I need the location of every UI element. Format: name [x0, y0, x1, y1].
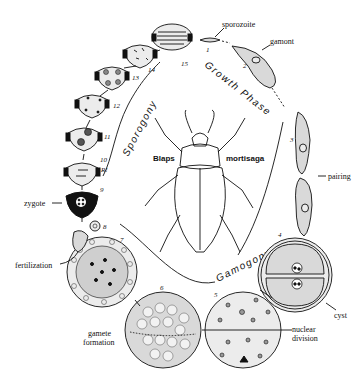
beetle-illustration	[145, 110, 253, 252]
label-pairing: pairing	[328, 172, 351, 181]
stage-number-8: 8	[103, 223, 107, 231]
life-cycle-diagram: Growth Phase Sporogony Gamogony Blaps mo…	[0, 0, 364, 372]
stage-10-oocyst	[64, 163, 100, 186]
stage-number-6: 6	[160, 284, 164, 292]
label-gamete-formation-line1: gamete	[88, 329, 112, 338]
stage-number-3: 3	[289, 136, 294, 144]
label-cyst: cyst	[334, 311, 348, 320]
label-gamont: gamont	[270, 37, 295, 46]
stage-15-oocyst-sporozoites	[152, 24, 192, 50]
label-nuclear-division-line2: division	[292, 334, 318, 343]
stage-9-zygote	[66, 192, 98, 222]
label-nuclear-division-line1: nuclear	[292, 325, 316, 334]
phase-label-sporogony: Sporogony	[120, 98, 159, 158]
host-genus-label: Blaps	[153, 154, 175, 163]
stage-number-2: 2	[243, 62, 247, 70]
stage-4-cyst	[258, 238, 332, 312]
host-species-label: mortisaga	[226, 154, 265, 163]
stage-number-14: 14	[148, 66, 156, 74]
stage-number-7: 7	[120, 236, 124, 244]
label-sporozoite: sporozoite	[222, 20, 256, 29]
label-fertilization: fertilization	[15, 261, 52, 270]
divider-growth	[238, 122, 283, 255]
stage-6-gamete-formation	[125, 292, 201, 368]
label-zygote: zygote	[24, 199, 46, 208]
stage-number-10: 10	[100, 156, 108, 164]
stage-12-oocyst	[75, 95, 109, 118]
stage-number-12: 12	[113, 102, 121, 110]
stage-number-5: 5	[214, 291, 218, 299]
stage-number-11: 11	[104, 133, 110, 141]
stage-13-oocyst	[95, 67, 129, 90]
stage-5-nuclear-division	[205, 292, 281, 368]
stage-14-oocyst	[123, 45, 157, 68]
stage-number-9: 9	[100, 186, 104, 194]
stage-11-oocyst	[66, 128, 102, 151]
stage-number-13: 13	[132, 74, 140, 82]
stage-number-15: 15	[181, 60, 189, 68]
stage-number-4: 4	[278, 231, 282, 239]
stage-3-pairing	[295, 112, 312, 236]
label-gamete-formation-line2: formation	[83, 338, 115, 347]
stage-1-sporozoite	[200, 38, 230, 43]
stage-number-1: 1	[206, 46, 210, 54]
label-reduction: R!	[100, 166, 108, 174]
